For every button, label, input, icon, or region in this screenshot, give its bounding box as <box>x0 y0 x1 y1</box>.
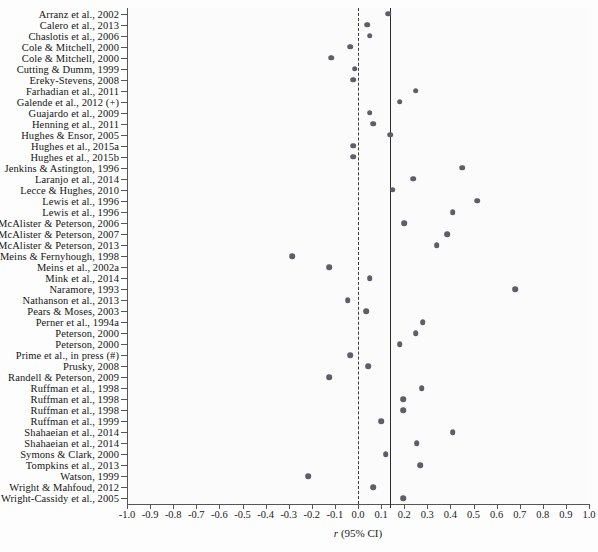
effect-size-point <box>370 485 376 491</box>
study-label: Lewis et al., 1996 <box>42 206 119 217</box>
effect-size-point <box>366 363 372 369</box>
effect-size-point <box>370 121 376 127</box>
study-row-tick <box>121 168 127 169</box>
study-label: Henning et al., 2011 <box>32 118 119 129</box>
study-row-tick <box>121 36 127 37</box>
effect-size-point <box>411 176 417 182</box>
study-label: Meins & Fernyhough, 1998 <box>0 251 119 262</box>
effect-size-point <box>419 385 425 391</box>
effect-size-point <box>401 220 407 226</box>
effect-size-point <box>367 110 373 116</box>
effect-size-point <box>385 11 391 17</box>
zero-reference-line <box>358 8 359 504</box>
study-row-tick <box>121 25 127 26</box>
study-row-tick <box>121 300 127 301</box>
study-label: Galende et al., 2012 (+) <box>17 96 119 107</box>
effect-size-point <box>383 452 389 458</box>
study-label: Ruffman et al., 1998 <box>31 405 119 416</box>
study-row-tick <box>121 410 127 411</box>
study-label: Naramore, 1993 <box>49 284 119 295</box>
study-label: Peterson, 2000 <box>55 339 119 350</box>
study-row-tick <box>121 498 127 499</box>
x-tick-label: -0.4 <box>257 509 274 520</box>
effect-size-point <box>367 33 373 39</box>
x-tick-label: 0.2 <box>398 509 411 520</box>
x-tick-label: 0.8 <box>536 509 549 520</box>
study-label: Hughes et al., 2015b <box>30 151 119 162</box>
study-label: Ruffman et al., 1998 <box>31 394 119 405</box>
x-tick-label: -0.1 <box>327 509 344 520</box>
study-label: Pears & Moses, 2003 <box>27 306 119 317</box>
effect-size-point <box>363 308 369 314</box>
study-label: Ruffman et al., 1998 <box>31 383 119 394</box>
effect-size-point <box>400 396 406 402</box>
effect-size-point <box>474 198 480 204</box>
study-label: Meins et al., 2002a <box>37 262 119 273</box>
study-label: Prime et al., in press (#) <box>16 350 119 361</box>
study-row-tick <box>121 135 127 136</box>
effect-size-point <box>306 474 312 480</box>
study-label: Tompkins et al., 2013 <box>26 460 119 471</box>
pooled-effect-line <box>390 8 391 508</box>
study-label: Chaslotis et al., 2006 <box>28 30 119 41</box>
effect-size-point <box>450 209 456 215</box>
effect-size-point <box>352 66 358 72</box>
study-label: Watson, 1999 <box>60 471 119 482</box>
study-row-tick <box>121 366 127 367</box>
effect-size-point <box>326 264 332 270</box>
study-label: Laranjo et al., 2014 <box>35 173 119 184</box>
effect-size-point <box>512 286 518 292</box>
study-row-tick <box>121 355 127 356</box>
study-row-tick <box>121 476 127 477</box>
effect-size-point <box>414 441 420 447</box>
effect-size-point <box>413 330 419 336</box>
study-row-tick <box>121 91 127 92</box>
effect-size-point <box>459 165 465 171</box>
study-row-tick <box>121 14 127 15</box>
study-label: Prusky, 2008 <box>63 361 119 372</box>
x-axis-label-ci: (95% CI) <box>338 527 382 539</box>
study-row-tick <box>121 311 127 312</box>
study-label: Arranz et al., 2002 <box>39 8 119 19</box>
study-row-tick <box>121 69 127 70</box>
study-label: Nathanson et al., 2013 <box>23 295 119 306</box>
study-row-tick <box>121 256 127 257</box>
study-row-tick <box>121 322 127 323</box>
study-row-tick <box>121 201 127 202</box>
study-row-tick <box>121 333 127 334</box>
effect-size-point <box>345 297 351 303</box>
study-label: McAlister & Peterson, 2006 <box>0 217 119 228</box>
effect-size-point <box>364 22 370 28</box>
study-row-tick <box>121 80 127 81</box>
effect-size-point <box>413 88 419 94</box>
x-tick-label: -0.2 <box>303 509 320 520</box>
study-row-tick <box>121 47 127 48</box>
study-row-tick <box>121 124 127 125</box>
effect-size-point <box>434 242 440 248</box>
study-row-tick <box>121 267 127 268</box>
study-label: Farhadian et al., 2011 <box>26 85 119 96</box>
effect-size-point <box>450 430 456 436</box>
study-row-tick <box>121 399 127 400</box>
study-row-tick <box>121 289 127 290</box>
effect-size-point <box>388 132 394 138</box>
study-row-tick <box>121 377 127 378</box>
study-label: Wright-Cassidy et al., 2005 <box>1 493 119 504</box>
study-label: Ereky-Stevens, 2008 <box>30 74 119 85</box>
study-label: Lecce & Hughes, 2010 <box>20 184 119 195</box>
effect-size-point <box>326 374 332 380</box>
study-label: Calero et al., 2013 <box>40 19 119 30</box>
x-tick-label: 0.6 <box>490 509 503 520</box>
effect-size-point <box>351 143 357 149</box>
study-label: Jenkins & Astington, 1996 <box>4 162 119 173</box>
study-row-tick <box>121 58 127 59</box>
study-label: Symons & Clark, 2000 <box>20 449 119 460</box>
study-label: Lewis et al., 1996 <box>42 195 119 206</box>
study-row-tick <box>121 223 127 224</box>
x-tick-label: 0.3 <box>421 509 434 520</box>
study-row-tick <box>121 421 127 422</box>
x-tick-label: 0.4 <box>444 509 457 520</box>
effect-size-point <box>397 341 403 347</box>
study-row-tick <box>121 157 127 158</box>
study-row-tick <box>121 465 127 466</box>
